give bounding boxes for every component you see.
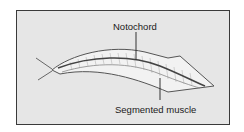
lancelet-body (52, 49, 214, 92)
segmented-muscle-label: Segmented muscle (115, 104, 196, 115)
notochord-label: Notochord (113, 21, 157, 32)
oral-cirri (36, 58, 52, 80)
